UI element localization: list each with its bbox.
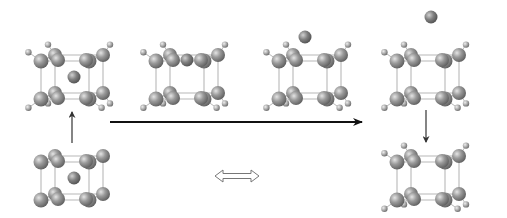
metal-ion — [68, 71, 81, 84]
molecules-layer — [25, 11, 469, 213]
molecule-diagram — [0, 0, 507, 218]
metal-ion — [425, 11, 438, 24]
molecule-top-1 — [25, 41, 113, 111]
arrows-layer — [72, 110, 426, 182]
metal-ion — [68, 172, 81, 185]
molecule-top-2 — [140, 41, 228, 111]
carbon-atoms — [390, 149, 467, 208]
molecule-top-3 — [263, 31, 351, 112]
carbon-atoms — [390, 48, 467, 107]
diagram-canvas — [0, 0, 507, 218]
carbon-atoms — [272, 48, 349, 107]
molecule-bottom-left — [34, 149, 111, 208]
molecule-top-4 — [381, 11, 469, 112]
resonance-double-arrow-icon — [215, 170, 259, 182]
metal-ion — [299, 31, 312, 44]
molecule-bottom-right — [381, 142, 469, 212]
metal-ion — [181, 54, 194, 67]
